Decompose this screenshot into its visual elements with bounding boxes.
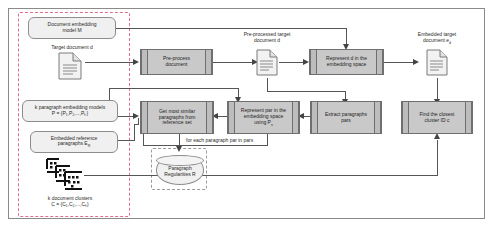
- store-paragraph-regularities[interactable]: Paragraph Regularities R: [156, 155, 204, 185]
- connector-refpar-up: [134, 124, 135, 141]
- embedded-reference-paragraphs-line2: paragraphs E: [58, 140, 88, 146]
- connector-representpar-loop-up: [143, 134, 144, 146]
- connector-representpar-loop-across: [143, 145, 268, 146]
- embedded-reference-paragraphs-sub: R: [88, 144, 91, 148]
- arrowhead-targetdoc-to-preprocess: [133, 59, 139, 65]
- arrowhead-representd-to-embdoc: [413, 59, 419, 65]
- connector-refpar-across: [118, 140, 134, 141]
- document-clusters-line2: C = {C₁,C₂,...,Cₖ}: [51, 201, 88, 207]
- connector-ppdoc-to-extract: [267, 91, 345, 92]
- connector-ppdoc-to-representd: [279, 62, 306, 63]
- get-similar-line3: reference set: [162, 119, 191, 125]
- embedded-target-document-sub: d: [449, 41, 451, 45]
- represent-par-sub: s: [271, 123, 273, 127]
- input-document-embedding-model[interactable]: Document embedding model M: [28, 17, 116, 39]
- connector-embdoc-down: [437, 78, 438, 101]
- connector-representd-to-embdoc: [384, 62, 416, 63]
- process-extract-paragraphs[interactable]: Extract paragraphs pars: [310, 101, 382, 134]
- connector-preprocess-to-ppdoc: [213, 62, 255, 63]
- represent-par-line3: using P: [254, 119, 271, 125]
- preprocessed-document-caption: Pre-processed target document d: [222, 31, 312, 43]
- process-represent-d-embedding-space[interactable]: Represent d in the embedding space: [309, 49, 384, 75]
- embedded-target-document-caption: Embedded target document ed: [396, 31, 478, 45]
- preprocessed-document-line2: document d: [254, 37, 280, 43]
- embedded-target-document-line2: document e: [423, 37, 449, 43]
- input-paragraph-embedding-models[interactable]: k paragraph embedding models P = {P₁,P₂,…: [22, 100, 118, 122]
- paragraph-embedding-models-line2: P = {P₁,P₂,...,Pₖ}: [52, 110, 88, 116]
- connector-targetdoc-to-preprocess: [85, 62, 135, 63]
- process-pre-process-document[interactable]: Pre-process document: [140, 49, 213, 75]
- clusters-icon: [44, 156, 86, 192]
- loop-annotation: for each paragraph par in pars: [186, 137, 306, 143]
- input-embedded-reference-paragraphs[interactable]: Embedded reference paragraphs ER: [30, 131, 118, 153]
- connector-model-to-represent-d: [116, 28, 346, 29]
- process-represent-par-embedding-space[interactable]: Represent par in the embedding space usi…: [227, 101, 300, 134]
- process-find-closest-cluster[interactable]: Find the closest cluster ID c: [401, 101, 473, 134]
- represent-d-line2: embedding space: [327, 61, 366, 67]
- process-get-most-similar-paragraphs[interactable]: Get most similar paragraphs from referen…: [140, 101, 214, 134]
- document-embedding-model-line2: model M: [62, 27, 81, 33]
- document-clusters-caption: k document clusters C = {C₁,C₂,...,Cₖ}: [20, 195, 120, 207]
- embedded-target-document-icon: [426, 49, 448, 76]
- target-document-caption: Target document d: [24, 44, 120, 50]
- extract-paragraphs-line2: pars: [341, 117, 351, 123]
- pre-process-document-line2: document: [166, 61, 188, 67]
- arrowhead-getsimilar-to-regularities: [176, 146, 182, 152]
- find-closest-cluster-line2: cluster ID c: [424, 117, 449, 123]
- connector-ppdoc-down: [267, 78, 268, 91]
- diagram-canvas: Document embedding model M Target docume…: [0, 0, 493, 230]
- connector-pmodels-across: [109, 88, 238, 89]
- connector-refpar-join: [138, 118, 139, 125]
- preprocessed-document-icon: [256, 49, 278, 76]
- connector-clusters-across: [84, 175, 437, 176]
- paragraph-regularities-line2: Regularities R: [164, 171, 195, 177]
- connector-clusters-up: [437, 140, 438, 176]
- target-document-icon: [58, 52, 82, 80]
